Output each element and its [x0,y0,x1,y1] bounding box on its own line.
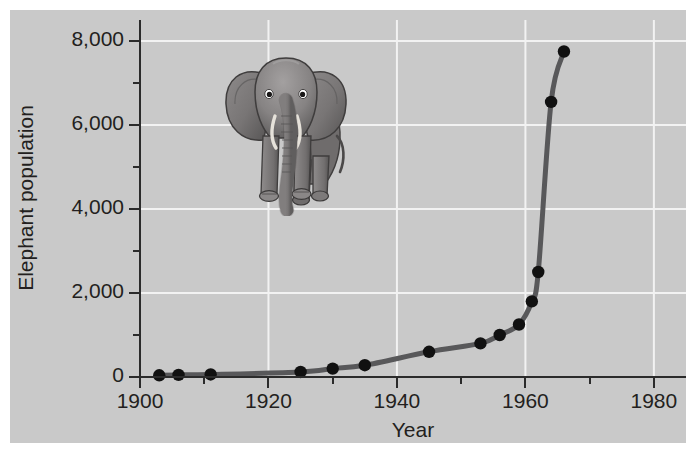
data-point [359,359,371,371]
elephant-population-figure: 02,0004,0006,0008,000 190019201940196019… [0,0,686,453]
x-axis-tick-label: 1900 [117,389,164,413]
data-point [474,337,486,349]
y-axis-tick [129,292,140,294]
x-axis-tick-label: 1960 [502,389,549,413]
data-point [526,295,538,307]
y-axis-line [139,20,141,378]
x-axis-tick [267,377,269,388]
x-axis-line [140,376,686,378]
data-point [172,369,184,381]
x-axis-minor-tick [460,377,462,384]
y-axis-minor-tick [133,250,140,252]
population-trend-line [159,52,564,376]
data-point [423,346,435,358]
x-axis-minor-tick [203,377,205,384]
x-axis-minor-tick [589,377,591,384]
data-point [494,329,506,341]
y-axis-minor-tick [133,334,140,336]
y-axis-tick-label: 2,000 [71,279,124,303]
data-point [558,45,570,57]
x-axis-minor-tick [332,377,334,384]
data-point [327,362,339,374]
data-point [513,318,525,330]
data-point [545,96,557,108]
y-axis-tick-label: 6,000 [71,111,124,135]
y-axis-minor-tick [133,166,140,168]
x-axis-tick [139,377,141,388]
elephant-illustration [221,44,352,216]
y-axis-tick [129,40,140,42]
y-axis-tick [129,124,140,126]
data-point [532,266,544,278]
x-axis-tick [653,377,655,388]
y-axis-tick-label: 0 [112,363,124,387]
y-axis-tick-label: 8,000 [71,27,124,51]
x-axis-title: Year [392,418,434,442]
x-axis-tick [524,377,526,388]
y-axis-tick [129,208,140,210]
x-axis-tick-label: 1940 [374,389,421,413]
elephant-icon [221,44,352,216]
data-point [204,368,216,380]
x-axis-tick-label: 1920 [245,389,292,413]
x-axis-tick-label: 1980 [631,389,678,413]
y-axis-title: Elephant population [14,105,38,291]
y-axis-tick-label: 4,000 [71,195,124,219]
y-axis-minor-tick [133,82,140,84]
x-axis-tick [396,377,398,388]
